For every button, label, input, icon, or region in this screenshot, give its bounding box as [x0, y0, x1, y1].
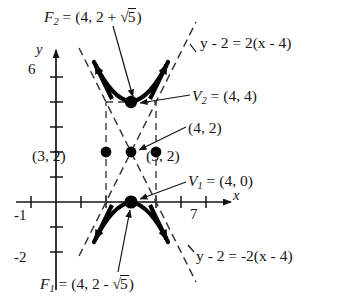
- radicand-upper: 5: [128, 8, 137, 25]
- point-vertex-lower: [124, 195, 137, 208]
- focus-upper-sub: 2: [53, 16, 58, 27]
- hyperbola-upper-right-arrow: [150, 65, 167, 99]
- leader-focus-lower: [118, 210, 130, 272]
- leader-asymptote-upper: [190, 44, 196, 52]
- label-focus-lower: F1 = (4, 2 - √5): [40, 275, 134, 294]
- point-center-4-2: [126, 147, 137, 158]
- sqrt-5-lower: √5: [113, 275, 129, 292]
- y-tick-label-6: 6: [28, 62, 36, 77]
- point-3-2: [101, 147, 112, 158]
- vertex-upper-eq: = (4, 4): [211, 87, 257, 104]
- focus-lower-sub: 1: [49, 283, 54, 294]
- focus-lower-close: ): [129, 275, 134, 292]
- label-center-point: (4, 2): [188, 120, 222, 136]
- label-vertex-upper: V2 = (4, 4): [192, 88, 257, 106]
- hyperbola-figure: F2 = (4, 2 + √5) y - 2 = 2(x - 4) V2 = (…: [0, 0, 359, 305]
- x-tick-label-7: 7: [190, 207, 198, 222]
- y-tick-label-minus-2: -2: [14, 250, 27, 265]
- label-right-point: (5, 2): [146, 148, 180, 164]
- label-asymptote-upper: y - 2 = 2(x - 4): [200, 35, 291, 51]
- asymptote-negative-slope: [79, 48, 196, 282]
- leader-focus-upper: [113, 26, 133, 97]
- leader-vertex-lower: [140, 182, 186, 199]
- hyperbola-lower-left-arrow: [96, 205, 113, 239]
- y-axis-label: y: [36, 42, 42, 57]
- vertex-upper-sub: 2: [201, 95, 206, 106]
- leader-asymptote-lower: [188, 245, 194, 252]
- leader-vertex-upper: [140, 95, 190, 103]
- x-tick-label-minus-1: -1: [14, 208, 27, 223]
- label-asymptote-lower: y - 2 = -2(x - 4): [196, 248, 293, 264]
- x-axis-label: x: [233, 188, 239, 203]
- label-focus-upper: F2 = (4, 2 + √5): [44, 8, 142, 27]
- radicand-lower: 5: [120, 275, 129, 292]
- focus-upper-eq: = (4, 2 +: [63, 8, 121, 25]
- hyperbola-lower-right-arrow: [150, 205, 167, 239]
- sqrt-5-upper: √5: [120, 8, 136, 25]
- focus-upper-close: ): [136, 8, 141, 25]
- focus-lower-eq: = (4, 2 -: [59, 275, 113, 292]
- asymptote-lower-text: y - 2 = -2(x - 4): [196, 247, 293, 264]
- label-left-point: (3, 2): [32, 148, 66, 164]
- vertex-lower-sub: 1: [197, 180, 202, 191]
- asymptote-upper-text: y - 2 = 2(x - 4): [200, 34, 291, 51]
- point-vertex-upper: [125, 96, 137, 108]
- vertex-lower-eq: = (4, 0): [207, 172, 253, 189]
- asymptote-positive-slope: [79, 22, 196, 256]
- label-vertex-lower: V1 = (4, 0): [188, 173, 253, 191]
- hyperbola-upper-left-arrow: [96, 65, 113, 99]
